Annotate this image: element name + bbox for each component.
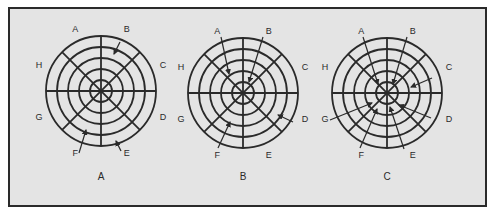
- sector-label-c: C: [446, 62, 453, 72]
- arrow-b: [114, 42, 120, 54]
- sector-label-b: B: [124, 24, 130, 34]
- sector-label-e: E: [410, 150, 416, 160]
- sector-label-f: F: [73, 148, 79, 158]
- caption-b: B: [240, 171, 247, 182]
- sector-label-d: D: [446, 114, 453, 124]
- target-c: ABCDEFGHC: [322, 26, 453, 182]
- sector-label-d: D: [302, 114, 309, 124]
- sector-label-h: H: [36, 60, 43, 70]
- sector-label-h: H: [178, 62, 185, 72]
- sector-label-a: A: [214, 26, 220, 36]
- sector-label-a: A: [72, 24, 78, 34]
- sector-label-e: E: [124, 148, 130, 158]
- sector-label-g: G: [322, 114, 329, 124]
- sector-label-b: B: [266, 26, 272, 36]
- sector-label-g: G: [178, 114, 185, 124]
- sector-label-c: C: [160, 60, 167, 70]
- sector-label-f: F: [215, 150, 221, 160]
- caption-a: A: [98, 171, 105, 182]
- target-b: ABCDEFGHB: [178, 26, 309, 182]
- sector-label-h: H: [322, 62, 329, 72]
- caption-c: C: [383, 171, 390, 182]
- sector-label-g: G: [36, 112, 43, 122]
- sector-label-e: E: [266, 150, 272, 160]
- target-a: ABCDEFGHA: [36, 24, 167, 182]
- sector-label-c: C: [302, 62, 309, 72]
- sector-label-f: F: [359, 150, 365, 160]
- sector-label-b: B: [410, 26, 416, 36]
- target-diagrams: ABCDEFGHAABCDEFGHBABCDEFGHC: [0, 0, 493, 218]
- sector-label-a: A: [358, 26, 364, 36]
- sector-label-d: D: [160, 112, 167, 122]
